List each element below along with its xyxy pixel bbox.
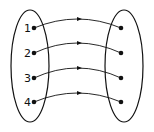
domain-point	[32, 100, 37, 105]
arrowhead-icon	[77, 91, 82, 95]
domain-point	[32, 76, 37, 81]
codomain-point	[119, 76, 124, 81]
arrowhead-icon	[77, 66, 82, 70]
mapping-diagram: 1234	[0, 0, 154, 132]
domain-point	[32, 26, 37, 31]
domain-elements: 1234	[24, 22, 36, 109]
arrowhead-icon	[77, 41, 82, 45]
domain-label: 2	[24, 47, 31, 60]
domain-point	[32, 51, 37, 56]
codomain-point	[119, 51, 124, 56]
domain-label: 3	[24, 72, 31, 85]
arrowhead-icon	[77, 17, 82, 21]
codomain-point	[119, 26, 124, 31]
domain-label: 1	[24, 22, 31, 35]
codomain-point	[119, 100, 124, 105]
codomain-set-ellipse	[105, 10, 143, 122]
domain-label: 4	[24, 96, 31, 109]
codomain-elements	[119, 26, 124, 105]
